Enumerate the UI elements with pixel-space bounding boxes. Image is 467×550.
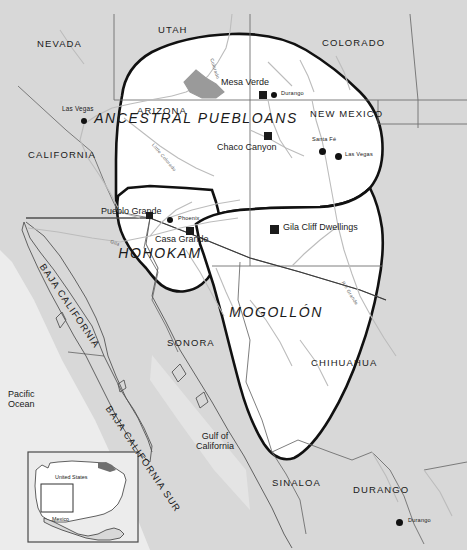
water-label-pacific-ocean: Pacific Ocean <box>8 389 35 409</box>
site-label-chaco-canyon: Chaco Canyon <box>217 143 277 152</box>
site-label-gila-cliff-dwellings: Gila Cliff Dwellings <box>283 223 358 232</box>
state-label-new-mexico: NEW MEXICO <box>310 109 383 119</box>
inset-label-mexico: Mexico <box>52 517 69 523</box>
site-marker-mesa-verde <box>259 91 267 99</box>
site-marker-casa-grande <box>186 227 194 235</box>
culture-area-label-mogollon: MOGOLLÓN <box>229 305 323 320</box>
site-marker-chaco-canyon <box>264 132 272 140</box>
state-label-nevada: NEVADA <box>37 39 82 49</box>
culture-area-label-hohokam: HOHOKAM <box>118 246 202 261</box>
state-label-chihuahua: CHIHUAHUA <box>311 358 377 368</box>
city-label-phoenix: Phoenix <box>178 216 200 222</box>
city-marker-durango-colorado <box>271 92 277 98</box>
culture-area-label-ancestral-puebloans: ANCESTRAL PUEBLOANS <box>94 111 298 126</box>
city-marker-santa-fe <box>319 148 326 155</box>
state-label-sonora: SONORA <box>167 338 215 348</box>
inset-label-united-states: United States <box>55 475 87 481</box>
state-label-utah: UTAH <box>158 25 188 35</box>
state-label-colorado: COLORADO <box>322 38 385 48</box>
site-label-casa-grande: Casa Grande <box>155 235 209 244</box>
city-label-las-vegas-new-mexico: Las Vegas <box>345 152 373 158</box>
state-label-durango: DURANGO <box>353 485 409 495</box>
city-marker-las-vegas-new-mexico <box>335 153 342 160</box>
city-marker-las-vegas-nevada <box>81 118 87 124</box>
site-marker-gila-cliff-dwellings <box>270 225 279 234</box>
city-label-durango-colorado: Durango <box>281 91 304 97</box>
city-marker-phoenix <box>167 217 173 223</box>
city-label-las-vegas-nevada: Las Vegas <box>62 106 94 113</box>
water-label-gulf-of-california: Gulf of California <box>196 431 234 451</box>
inset-map <box>28 452 138 542</box>
city-label-santa-fe: Santa Fé <box>312 137 336 143</box>
site-label-mesa-verde: Mesa Verde <box>221 78 269 87</box>
southwest-culture-areas-map: NEVADA UTAH COLORADO ARIZONA NEW MEXICO … <box>0 0 467 550</box>
city-marker-durango-mexico <box>396 519 403 526</box>
state-label-sinaloa: SINALOA <box>272 478 321 488</box>
site-marker-pueblo-grande <box>146 212 153 219</box>
city-label-durango-mexico: Durango <box>408 518 431 524</box>
state-label-california: CALIFORNIA <box>28 150 96 160</box>
